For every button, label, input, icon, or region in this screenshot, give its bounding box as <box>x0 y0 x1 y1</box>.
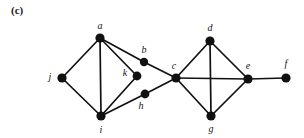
graph-vertex-j <box>57 73 66 82</box>
graph-edge-g-e <box>211 79 248 116</box>
vertex-label-e: e <box>246 61 250 71</box>
graph-vertex-h <box>141 90 150 99</box>
vertex-label-j: j <box>49 72 52 82</box>
graph-vertex-f <box>281 73 290 82</box>
graph-vertex-k <box>133 72 142 81</box>
vertex-label-b: b <box>142 45 147 55</box>
graph-edge-i-k <box>101 76 137 116</box>
graph-edge-j-i <box>62 78 101 116</box>
graph-edge-c-d <box>176 41 210 78</box>
graph-vertex-g <box>206 111 215 120</box>
graph-vertex-a <box>95 33 104 42</box>
vertex-label-d: d <box>208 23 213 33</box>
graph-edge-j-a <box>62 38 100 78</box>
vertex-label-f: f <box>285 59 288 69</box>
graph-diagram <box>0 0 304 138</box>
vertex-label-i: i <box>100 125 103 135</box>
graph-edge-d-e <box>210 41 248 79</box>
graph-edge-d-g <box>210 41 211 116</box>
graph-edge-e-f <box>248 78 286 79</box>
graph-edge-a-b <box>100 38 144 62</box>
graph-vertex-i <box>96 111 105 120</box>
figure-panel: (c) abcdefghijk <box>0 0 304 138</box>
vertex-label-k: k <box>123 68 127 78</box>
graph-vertex-c <box>171 73 180 82</box>
vertex-label-a: a <box>98 21 103 31</box>
graph-vertex-d <box>205 36 214 45</box>
graph-edge-a-i <box>100 38 101 116</box>
graph-vertex-b <box>140 58 148 66</box>
vertex-label-c: c <box>172 61 176 71</box>
graph-edge-c-g <box>176 78 211 116</box>
graph-vertex-e <box>243 74 252 83</box>
vertex-label-g: g <box>209 124 214 134</box>
graph-edge-a-k <box>100 38 137 76</box>
vertex-label-h: h <box>139 101 144 111</box>
graph-edge-h-c <box>145 78 176 94</box>
graph-edge-c-e <box>176 78 248 79</box>
